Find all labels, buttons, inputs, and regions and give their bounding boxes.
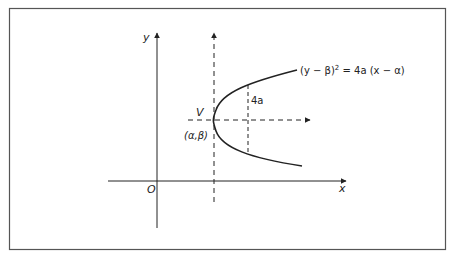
vertex-label: V: [196, 106, 205, 119]
equation-lhs: (y − β): [300, 65, 335, 76]
origin-label: O: [147, 183, 156, 196]
vertex-coordinates-label: (α,β): [184, 130, 208, 141]
parabola-equation: (y − β)2 = 4a (x − α): [300, 64, 405, 76]
latus-rectum-label: 4a: [251, 95, 264, 106]
equation-rhs: = 4a (x − α): [339, 65, 405, 76]
x-axis-label: x: [338, 182, 346, 195]
parabola-diagram: y x O V (α,β) 4a (y − β)2 = 4a (x − α): [0, 0, 450, 257]
figure-frame: [10, 9, 446, 250]
parabola-curve: [213, 70, 302, 166]
y-axis-label: y: [142, 31, 150, 44]
